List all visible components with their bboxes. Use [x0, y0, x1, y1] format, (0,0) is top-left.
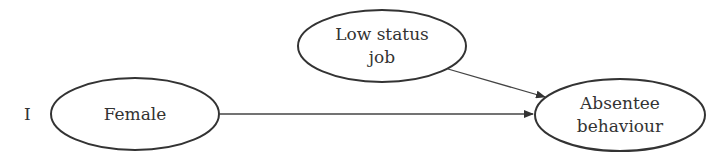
node-absentee-behaviour-label-line1: Absentee	[579, 93, 660, 113]
node-absentee-behaviour: Absentee behaviour	[535, 79, 705, 151]
node-female: Female	[51, 78, 219, 150]
panel-label: I	[24, 104, 31, 124]
node-female-label: Female	[104, 104, 167, 124]
node-absentee-behaviour-ellipse	[535, 79, 705, 151]
node-low-status-job-label-line2: job	[367, 47, 396, 67]
node-low-status-job: Low status job	[298, 10, 466, 82]
node-low-status-job-label-line1: Low status	[335, 24, 429, 44]
edge-lowstatus-to-absentee	[448, 69, 545, 97]
diagram-canvas: I Female Low status job Absentee behavio…	[0, 0, 728, 162]
node-absentee-behaviour-label-line2: behaviour	[577, 116, 664, 136]
node-low-status-job-ellipse	[298, 10, 466, 82]
diagram-svg: I Female Low status job Absentee behavio…	[0, 0, 728, 162]
